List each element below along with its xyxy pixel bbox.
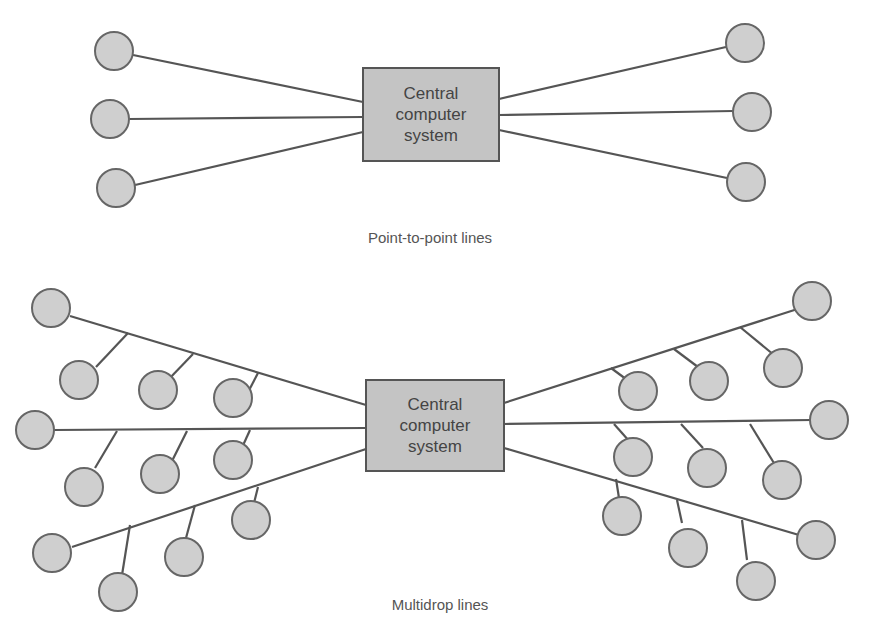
multidrop-caption: Multidrop lines [392,596,489,613]
terminal-node [764,349,802,387]
trunk-line [54,428,366,430]
point-to-point-line [499,47,726,99]
point-to-point-line [133,55,363,102]
terminal-node [139,371,177,409]
terminal-node [99,573,137,611]
point-to-point-caption: Point-to-point lines [368,229,492,246]
terminal-node [688,449,726,487]
terminal-node [793,282,831,320]
terminal-node [16,411,54,449]
terminal-node [603,497,641,535]
network-diagram: Central computer system Point-to-point l… [0,0,879,637]
central-label-line-3: system [408,437,462,456]
terminal-node [737,562,775,600]
terminal-node [141,455,179,493]
terminal-node [91,100,129,138]
terminal-node [669,529,707,567]
terminal-node [33,534,71,572]
point-to-point-diagram: Central computer system Point-to-point l… [91,24,771,246]
central-label-line-1: Central [404,84,459,103]
drop-line [740,327,774,355]
point-to-point-line [135,132,363,185]
terminal-node [214,441,252,479]
terminal-node [619,372,657,410]
central-label-line-1: Central [408,395,463,414]
drop-line [95,431,117,468]
terminal-node [95,32,133,70]
terminal-node [214,379,252,417]
drop-line [677,500,682,523]
terminal-node [810,401,848,439]
terminal-node [797,521,835,559]
terminal-node [60,361,98,399]
point-to-point-line [499,111,733,115]
drop-line [681,424,703,448]
terminal-node [727,163,765,201]
multidrop-diagram: Central computer system Multidrop lines [16,282,848,613]
central-label-line-2: computer [396,105,467,124]
drop-line [742,520,747,560]
terminal-node [232,501,270,539]
point-to-point-line [499,130,727,178]
terminal-node [763,461,801,499]
drop-line [750,424,777,468]
central-label-line-2: computer [400,416,471,435]
terminal-node [733,93,771,131]
central-label-line-3: system [404,126,458,145]
trunk-line [504,420,812,424]
drop-line [96,333,128,367]
drop-line [186,505,195,538]
terminal-node [690,362,728,400]
terminal-node [614,438,652,476]
central-computer-box-bottom: Central computer system [366,380,504,471]
terminal-node [65,468,103,506]
terminal-node [32,289,70,327]
central-computer-box-top: Central computer system [363,68,499,161]
terminal-node [97,169,135,207]
drop-line [122,525,130,575]
terminal-node [165,538,203,576]
point-to-point-line [129,117,363,119]
terminal-node [726,24,764,62]
